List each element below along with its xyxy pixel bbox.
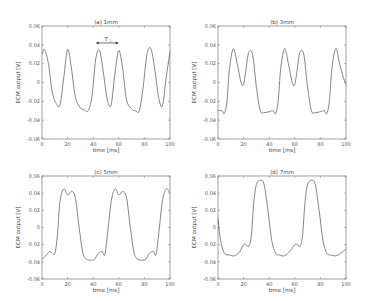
period-annotation: T1 [96, 36, 119, 45]
data-series-line [218, 49, 346, 114]
axes-frame [218, 176, 346, 279]
figure: 0204060801000.060.040.020-0.02-0.04-0.06… [0, 0, 366, 301]
y-tick-label: -0.04 [27, 259, 40, 265]
subplot-title: (b) 3mm [270, 19, 294, 25]
y-tick-label: 0 [213, 79, 216, 85]
x-axis-label: time [ms] [269, 147, 296, 153]
y-tick-label: 0.06 [205, 173, 216, 179]
y-axis-label: ECM output [V] [191, 62, 198, 104]
y-tick-label: 0.02 [29, 60, 40, 66]
subplot-d: 0204060801000.060.040.020-0.02-0.04-0.06… [191, 169, 351, 293]
x-tick-label: 80 [141, 141, 147, 147]
axes-frame [218, 26, 346, 139]
subplot-a: 0204060801000.060.040.020-0.02-0.04-0.06… [15, 19, 175, 153]
x-tick-label: 100 [341, 141, 351, 147]
y-tick-label: -0.02 [27, 98, 40, 104]
x-tick-label: 0 [40, 141, 43, 147]
y-tick-label: -0.02 [203, 241, 216, 247]
arrow-right-icon [116, 41, 119, 44]
y-tick-label: 0 [37, 224, 40, 230]
x-tick-label: 80 [317, 281, 323, 287]
x-axis-label: time [ms] [93, 147, 120, 153]
y-tick-label: 0.02 [29, 207, 40, 213]
x-tick-label: 80 [317, 141, 323, 147]
svg-text:1: 1 [109, 39, 111, 43]
y-tick-label: 0.04 [205, 42, 216, 48]
x-tick-label: 0 [40, 281, 43, 287]
y-tick-label: 0.04 [29, 190, 40, 196]
y-axis-label: ECM output [V] [15, 62, 22, 104]
x-axis-label: time [ms] [93, 287, 120, 293]
svg-text:T: T [104, 36, 109, 42]
x-tick-label: 20 [64, 281, 70, 287]
y-tick-label: -0.02 [27, 241, 40, 247]
y-tick-label: 0 [37, 79, 40, 85]
y-tick-label: -0.04 [27, 117, 40, 123]
x-tick-label: 100 [341, 281, 351, 287]
y-axis-label: ECM output [V] [191, 207, 198, 249]
axes-frame [42, 176, 170, 279]
subplot-title: (c) 5mm [94, 169, 117, 175]
y-tick-label: 0.04 [29, 42, 40, 48]
data-series-line [42, 189, 170, 261]
y-axis-label: ECM output [V] [15, 207, 22, 249]
y-tick-label: -0.06 [203, 136, 216, 142]
arrow-left-icon [96, 41, 99, 44]
subplot-c: 0204060801000.060.040.020-0.02-0.04-0.06… [15, 169, 175, 293]
y-tick-label: 0.02 [205, 60, 216, 66]
y-tick-label: -0.04 [203, 117, 216, 123]
x-tick-label: 0 [216, 281, 219, 287]
y-tick-label: -0.04 [203, 259, 216, 265]
x-tick-label: 0 [216, 141, 219, 147]
data-series-line [218, 180, 346, 256]
x-tick-label: 20 [64, 141, 70, 147]
y-tick-label: -0.06 [203, 276, 216, 282]
y-tick-label: -0.02 [203, 98, 216, 104]
y-tick-label: 0.02 [205, 207, 216, 213]
x-tick-label: 100 [165, 281, 175, 287]
x-tick-label: 20 [240, 281, 246, 287]
x-tick-label: 80 [141, 281, 147, 287]
y-tick-label: -0.06 [27, 276, 40, 282]
subplot-b: 0204060801000.060.040.020-0.02-0.04-0.06… [191, 19, 351, 153]
x-axis-label: time [ms] [269, 287, 296, 293]
y-tick-label: 0.06 [205, 23, 216, 29]
y-tick-label: 0 [213, 224, 216, 230]
data-series-line [42, 48, 170, 113]
y-tick-label: 0.04 [205, 190, 216, 196]
x-tick-label: 20 [240, 141, 246, 147]
subplot-title: (d) 7mm [270, 169, 294, 175]
y-tick-label: 0.06 [29, 23, 40, 29]
y-tick-label: 0.06 [29, 173, 40, 179]
subplot-title: (a) 1mm [94, 19, 118, 25]
y-tick-label: -0.06 [27, 136, 40, 142]
x-tick-label: 100 [165, 141, 175, 147]
